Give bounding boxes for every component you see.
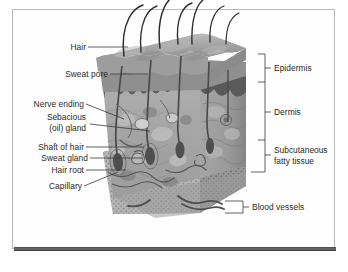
label-nerve-ending: Nerve ending (8, 99, 84, 109)
label-sebaceous-gland: Sebacious (oil) gland (8, 112, 86, 133)
label-hair: Hair (20, 42, 86, 52)
label-blood-vessels: Blood vessels (252, 202, 304, 212)
label-subcutaneous-line1: Subcutaneous (274, 145, 328, 156)
skin-block-illustration (0, 0, 348, 272)
skin-diagram-figure: Hair Sweat pore Nerve ending Sebacious (… (0, 0, 348, 272)
label-shaft-of-hair: Shaft of hair (14, 142, 84, 152)
label-sebaceous-line2: (oil) gland (8, 123, 86, 134)
label-subcutaneous: Subcutaneous fatty tissue (274, 145, 328, 166)
label-sweat-pore: Sweat pore (20, 69, 108, 79)
label-subcutaneous-line2: fatty tissue (274, 156, 328, 167)
label-dermis: Dermis (274, 107, 301, 117)
label-epidermis: Epidermis (274, 63, 312, 73)
label-sweat-gland: Sweat gland (14, 153, 88, 163)
label-capillary: Capillary (18, 181, 82, 191)
label-sebaceous-line1: Sebacious (8, 112, 86, 123)
label-hair-root: Hair root (18, 165, 84, 175)
